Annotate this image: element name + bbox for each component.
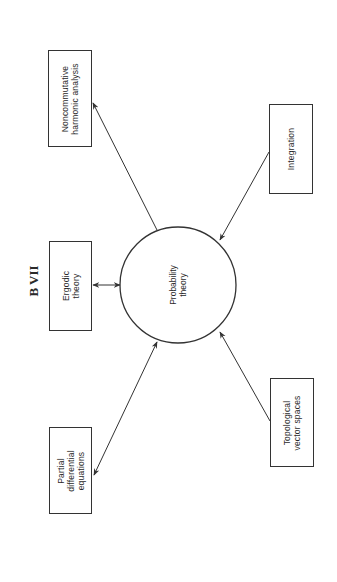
edge-probability-to-noncommutative [93,103,157,230]
probability-theory-label: Probability theory [168,265,188,305]
node-partial-differential-equations: Partial differential equations [49,427,92,514]
node-label-line: Ergodic [61,271,71,301]
edge-pde-probability [94,342,157,475]
node-label-line: Noncommutative [60,63,70,134]
node-label-line: harmonic analysis [70,63,80,134]
center-line-2: theory [178,265,188,305]
node-label-line: Topological [282,395,292,450]
figure-title: B VII [26,265,42,296]
node-label-line: vector spaces [292,395,302,450]
node-label-line: differential [66,450,76,491]
edge-integration-to-probability [220,152,269,240]
node-integration: Integration [269,104,313,194]
edge-topological-to-probability [220,332,270,421]
node-noncommutative-harmonic-analysis: Noncommutative harmonic analysis [48,50,92,147]
node-label-line: theory [71,271,81,301]
center-line-1: Probability [168,265,178,305]
node-label-line: Integration [286,128,296,170]
node-ergodic-theory: Ergodic theory [49,241,92,331]
node-topological-vector-spaces: Topological vector spaces [270,378,314,467]
node-label-line: equations [76,450,86,491]
node-label-line: Partial [56,450,66,491]
